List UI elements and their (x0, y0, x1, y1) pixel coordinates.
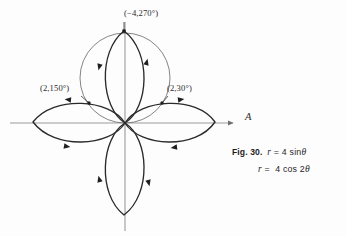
arrowhead-top-right (143, 58, 150, 66)
figure-number: Fig. 30. (232, 147, 262, 157)
equation-2-lhs: r (258, 164, 262, 174)
equation-2-rhs: 4 cos 2 (275, 164, 305, 174)
arrowhead-bottom-left (96, 175, 103, 183)
caption-line-1: Fig. 30. r = 4 sinθ (232, 147, 344, 157)
arrowhead-right-upper (178, 96, 185, 102)
arrowhead-top-left (96, 63, 103, 71)
equation-1: r = 4 sinθ (265, 147, 307, 157)
point-label-right: (2,30°) (167, 83, 192, 93)
equation-2-variable: θ (305, 163, 310, 174)
figure-caption: Fig. 30. r = 4 sinθ r = 4 cos 2θ (232, 147, 344, 175)
equation-1-rhs: 4 sin (282, 147, 302, 157)
arrowhead-left-lower (64, 143, 71, 149)
axis-label-a: A (245, 111, 251, 122)
polar-plot-canvas (0, 0, 346, 236)
arrowhead-left-upper (64, 97, 71, 103)
equation-1-lhs: r (267, 147, 271, 157)
caption-line-2: r = 4 cos 2θ (232, 164, 344, 174)
point-label-top: (−4,270°) (124, 8, 158, 18)
point-label-left: (2,150°) (40, 83, 69, 93)
arrowhead-right-lower (170, 144, 177, 150)
equation-2-eq: = (265, 164, 270, 174)
axes-group (10, 22, 233, 231)
equation-1-eq: = (274, 147, 279, 157)
polar-figure: (−4,270°) (2,150°) (2,30°) A Fig. 30. r … (0, 0, 346, 236)
equation-1-variable: θ (301, 146, 306, 157)
arrowhead-bottom-right (145, 179, 152, 187)
equation-2: r = 4 cos 2θ (258, 164, 310, 174)
point-marker-top (122, 29, 126, 33)
